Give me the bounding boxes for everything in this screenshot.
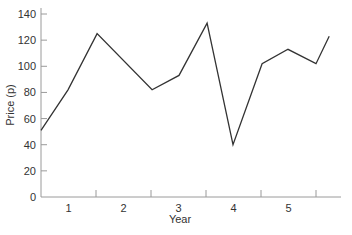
x-axis: 12345 [41,190,341,214]
x-tick-label: 4 [230,202,236,214]
x-tick-label: 2 [120,202,126,214]
y-tick-label: 100 [18,60,36,72]
y-tick-label: 60 [24,113,36,125]
plot-area [41,23,329,145]
price-line [41,23,329,145]
y-tick-label: 140 [18,8,36,20]
x-tick-label: 1 [65,202,71,214]
y-tick-label: 120 [18,34,36,46]
x-tick-label: 5 [285,202,291,214]
y-axis-title: Price (p) [4,84,16,126]
x-axis-title: Year [169,213,192,225]
y-tick-label: 20 [24,165,36,177]
y-tick-label: 0 [30,191,36,203]
y-tick-label: 40 [24,139,36,151]
y-axis: 020406080100120140 [18,8,47,203]
y-tick-label: 80 [24,86,36,98]
line-chart: 020406080100120140 12345 Price (p) Year [0,0,352,235]
